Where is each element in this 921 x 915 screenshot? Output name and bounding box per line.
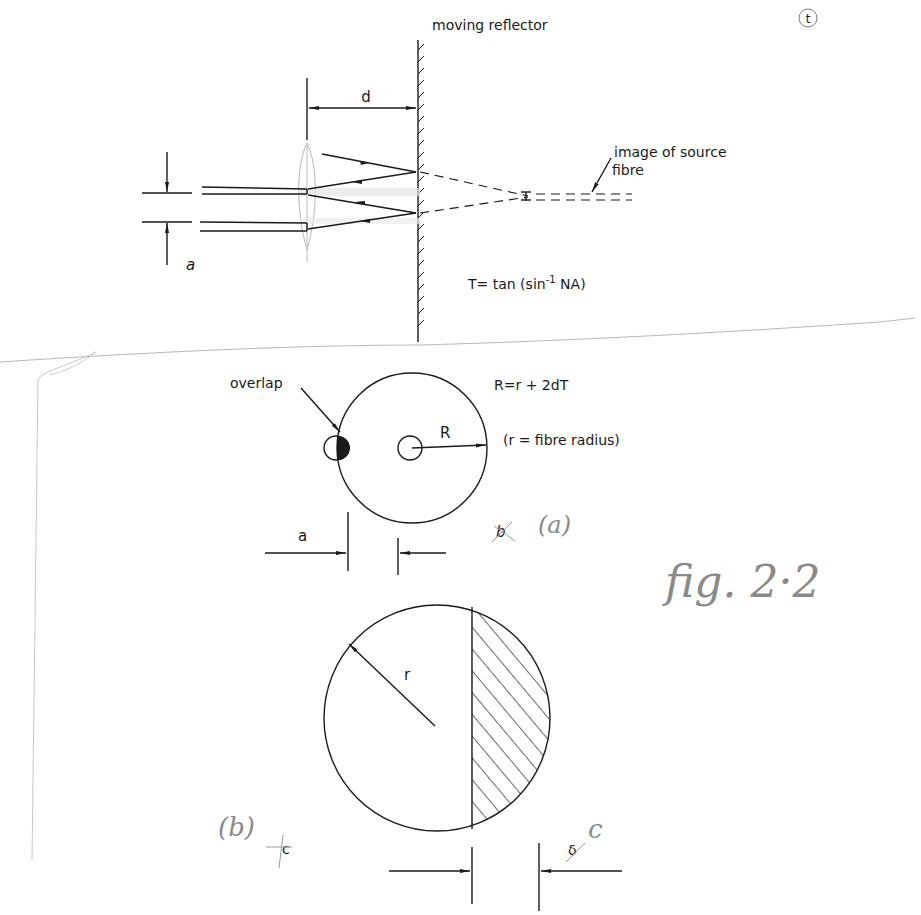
struck-b-label: b (496, 523, 506, 541)
panel-a: overlap R R=r + 2dT (r = fibre radius) a… (32, 352, 620, 860)
formula-T: T= tan (sin-1 NA) (467, 274, 586, 292)
r-radius-label: r (404, 666, 411, 684)
top-panel: moving reflector (0, 17, 915, 362)
R-formula: R=r + 2dT (494, 377, 569, 393)
distance-label: d (361, 88, 371, 106)
page-mark: t (799, 9, 817, 27)
image-label-group: image of source fibre (592, 144, 727, 192)
image-label-line2: fibre (612, 162, 644, 178)
overlap-label: overlap (230, 375, 283, 391)
panel-b: r δ c (b) c (218, 600, 622, 911)
page-mark-text: t (806, 12, 811, 26)
separation-label: a (186, 256, 195, 274)
fibres (200, 187, 307, 231)
a-dimension-label: a (298, 527, 307, 545)
panel-a-label: (a) (538, 511, 571, 539)
R-label: R (440, 424, 450, 442)
image-label-line1: image of source (614, 144, 727, 160)
struck-c-label: c (282, 841, 290, 857)
separation-dimension: a (142, 152, 195, 274)
figure-title: fig. 2·2 (662, 556, 820, 607)
replacement-c-label: c (588, 814, 603, 844)
overlap-region (337, 436, 350, 460)
panel-b-label: (b) (218, 812, 255, 842)
distance-dimension: d (307, 78, 416, 140)
figure-canvas: t moving reflector (0, 0, 921, 915)
reflector-label: moving reflector (432, 17, 548, 33)
hatched-region (472, 600, 552, 840)
r-note: (r = fibre radius) (503, 432, 620, 448)
